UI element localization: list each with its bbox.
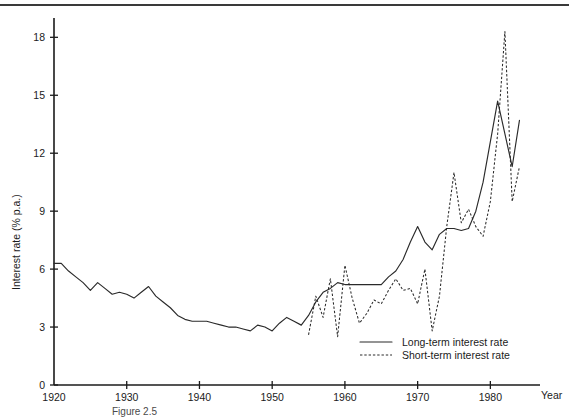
interest-rate-figure: 0369121518 1920193019401950196019701980 … xyxy=(0,0,569,418)
figure-caption: Figure 2.5 xyxy=(112,406,157,417)
x-tick-label: 1980 xyxy=(479,391,503,403)
chart-legend: Long-term interest rate Short-term inter… xyxy=(360,336,510,361)
y-tick-label: 9 xyxy=(39,205,45,217)
y-tick-label: 3 xyxy=(39,321,45,333)
x-tick-label: 1960 xyxy=(333,391,357,403)
series-short-term-interest-rate xyxy=(309,32,520,337)
series-long-term-interest-rate xyxy=(54,101,519,331)
y-tick-label: 0 xyxy=(39,379,45,391)
y-tick-label: 15 xyxy=(33,89,45,101)
x-tick-label: 1970 xyxy=(406,391,430,403)
y-tick-label: 18 xyxy=(33,31,45,43)
legend-label-long-term: Long-term interest rate xyxy=(402,336,508,348)
y-axis-tick-labels: 0369121518 xyxy=(33,31,45,391)
x-tick-label: 1920 xyxy=(42,391,66,403)
x-tick-label: 1930 xyxy=(115,391,139,403)
legend-label-short-term: Short-term interest rate xyxy=(402,349,510,361)
y-axis-title: Interest rate (% p.a.) xyxy=(10,194,22,290)
x-tick-label: 1940 xyxy=(188,391,212,403)
y-tick-label: 6 xyxy=(39,263,45,275)
y-tick-label: 12 xyxy=(33,147,45,159)
y-axis: 0369121518 xyxy=(33,18,58,391)
x-axis-title: Year xyxy=(541,389,563,401)
interest-rate-chart: 0369121518 1920193019401950196019701980 … xyxy=(0,0,569,418)
x-axis: 1920193019401950196019701980 xyxy=(42,381,540,403)
x-tick-label: 1950 xyxy=(261,391,285,403)
x-axis-tick-labels: 1920193019401950196019701980 xyxy=(42,391,502,403)
